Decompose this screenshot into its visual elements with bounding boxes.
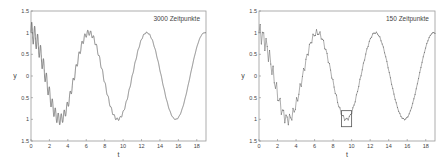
y-tick-label: 1 <box>254 30 257 36</box>
signal-line <box>259 25 435 125</box>
y-tick-label: 1 <box>26 30 29 36</box>
x-tick-label: 12 <box>138 143 144 149</box>
y-tick-label: 0 <box>26 73 29 79</box>
y-tick-label: 1.5 <box>249 8 257 14</box>
x-tick-label: 6 <box>313 143 316 149</box>
x-tick-label: 4 <box>295 143 298 149</box>
y-tick-label: 1 <box>254 116 257 122</box>
x-tick-label: 14 <box>386 143 392 149</box>
x-tick-label: 6 <box>85 143 88 149</box>
y-tick-label: 0.5 <box>21 95 29 101</box>
y-tick-label: 1.5 <box>21 138 29 144</box>
y-axis-label: y <box>13 72 17 80</box>
chart-right-150-points: 0246810121416181.510.500.511.5ty150 Zeit… <box>223 0 445 162</box>
x-tick-label: 0 <box>257 143 260 149</box>
x-tick-label: 16 <box>404 143 410 149</box>
sample-count-annotation: 150 Zeitpunkte <box>386 15 429 23</box>
y-tick-label: 0.5 <box>249 51 257 57</box>
x-tick-label: 8 <box>332 143 335 149</box>
line-chart: 0246810121416181.510.500.511.5ty150 Zeit… <box>223 0 445 162</box>
x-tick-label: 14 <box>157 143 163 149</box>
x-tick-label: 16 <box>175 143 181 149</box>
y-tick-label: 1.5 <box>249 138 257 144</box>
x-tick-label: 2 <box>276 143 279 149</box>
x-tick-label: 18 <box>194 143 200 149</box>
plot-area <box>259 11 435 141</box>
x-tick-label: 12 <box>367 143 373 149</box>
y-tick-label: 0.5 <box>249 95 257 101</box>
x-tick-label: 2 <box>48 143 51 149</box>
y-tick-label: 0 <box>254 73 257 79</box>
line-chart: 0246810121416181.510.500.511.5ty3000 Zei… <box>0 0 222 162</box>
signal-line <box>31 22 206 125</box>
x-tick-label: 4 <box>66 143 69 149</box>
x-axis-label: t <box>118 151 120 158</box>
chart-left-3000-points: 0246810121416181.510.500.511.5ty3000 Zei… <box>0 0 222 162</box>
x-tick-label: 0 <box>29 143 32 149</box>
x-axis-label: t <box>346 151 348 158</box>
x-tick-label: 18 <box>423 143 429 149</box>
y-tick-label: 1.5 <box>21 8 29 14</box>
sample-count-annotation: 3000 Zeitpunkte <box>153 15 200 23</box>
y-tick-label: 1 <box>26 116 29 122</box>
y-tick-label: 0.5 <box>21 51 29 57</box>
x-tick-label: 10 <box>120 143 126 149</box>
x-tick-label: 8 <box>103 143 106 149</box>
y-axis-label: y <box>241 72 245 80</box>
x-tick-label: 10 <box>349 143 355 149</box>
